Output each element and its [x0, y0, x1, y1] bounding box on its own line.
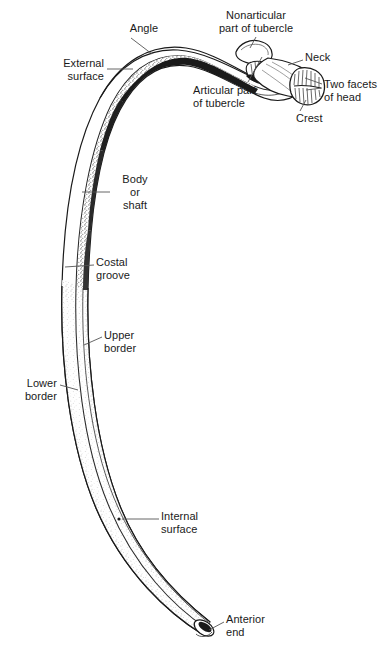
label-upper-border: Upper border — [104, 329, 150, 355]
label-lower-border: Lower border — [10, 377, 57, 403]
label-two-facets-of-head: Two facets of head — [324, 78, 389, 104]
label-anterior-end: Anterior end — [226, 613, 284, 639]
label-articular-part-of-tubercle: Articular part of tubercle — [193, 84, 275, 110]
label-crest: Crest — [296, 112, 332, 125]
label-costal-groove: Costal groove — [96, 256, 144, 282]
label-angle: Angle — [121, 22, 167, 35]
label-body-or-shaft: Body or shaft — [112, 173, 158, 213]
label-internal-surface: Internal surface — [161, 510, 216, 536]
label-neck: Neck — [305, 51, 341, 64]
label-external-surface: External surface — [37, 57, 104, 83]
label-nonarticular-part-of-tubercle: Nonarticular part of tubercle — [198, 9, 314, 35]
rib-anatomy-figure: AngleNonarticular part of tubercleNeckEx… — [0, 0, 389, 651]
label-layer: AngleNonarticular part of tubercleNeckEx… — [0, 0, 389, 651]
